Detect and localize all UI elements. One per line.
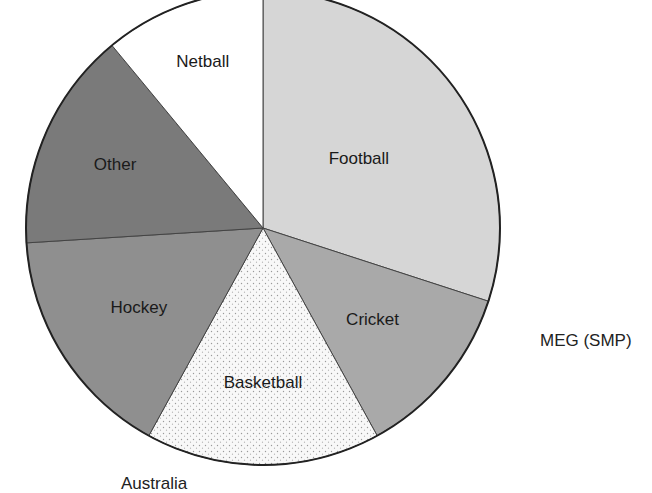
pie-slices [26,0,500,465]
slice-label-football: Football [329,149,389,168]
slice-label-basketball: Basketball [224,373,302,392]
slice-label-cricket: Cricket [346,310,399,329]
slice-label-hockey: Hockey [111,298,168,317]
slice-label-other: Other [94,155,137,174]
credit-text: MEG (SMP) [540,331,632,351]
chart-caption: Australia [121,474,187,493]
slice-label-netball: Netball [176,52,229,71]
